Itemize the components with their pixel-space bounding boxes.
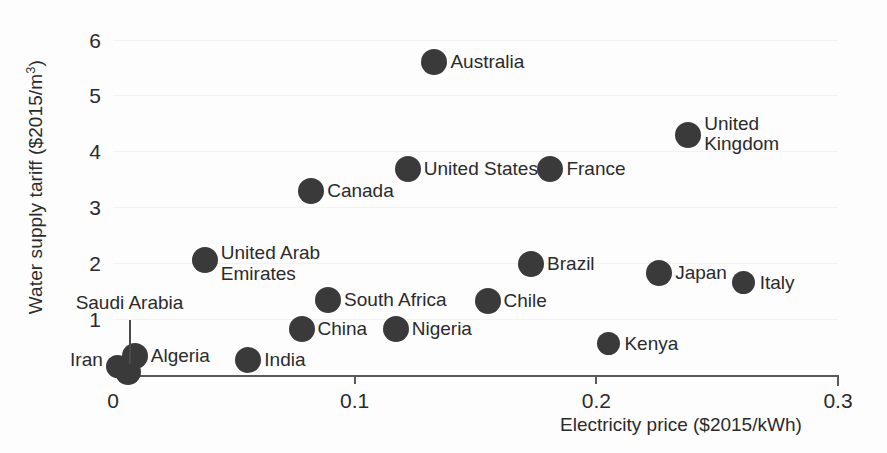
- gridline-ghost: [113, 40, 838, 41]
- data-point-label: India: [264, 350, 305, 371]
- data-point-marker[interactable]: [518, 251, 544, 277]
- data-point-marker[interactable]: [537, 156, 563, 182]
- x-axis-tick-label: 0.1: [340, 390, 369, 411]
- data-point-label: Brazil: [547, 254, 595, 275]
- data-point-marker[interactable]: [421, 49, 447, 75]
- scatter-chart-figure: Water supply tariff ($2015/m3) Electrici…: [0, 0, 887, 453]
- gridline-ghost: [113, 207, 838, 208]
- data-point-label: France: [566, 159, 625, 180]
- data-point-label: Kenya: [624, 333, 678, 354]
- data-point-label: Japan: [675, 262, 727, 283]
- y-axis-title-main: Water supply tariff ($2015/m: [25, 74, 46, 314]
- x-axis-tick-label: 0.2: [582, 390, 611, 411]
- data-point-marker[interactable]: [597, 332, 620, 355]
- data-point-marker[interactable]: [115, 359, 141, 385]
- data-point-marker[interactable]: [298, 178, 324, 204]
- data-point-label: Chile: [504, 290, 547, 311]
- y-axis-tick-label: 5: [89, 85, 101, 106]
- x-axis-tick-mark: [354, 375, 356, 384]
- gridline-ghost: [113, 319, 838, 320]
- x-axis-tick-mark: [595, 375, 597, 384]
- y-axis-tick-label: 4: [89, 141, 101, 162]
- y-axis-title-close: ): [25, 60, 46, 66]
- data-point-label: Australia: [450, 52, 524, 73]
- data-point-label: South Africa: [344, 289, 446, 310]
- data-point-marker[interactable]: [315, 287, 341, 313]
- y-axis-tick-label: 6: [89, 29, 101, 50]
- data-point-label: Canada: [327, 180, 394, 201]
- x-axis-title: Electricity price ($2015/kWh): [560, 414, 802, 436]
- data-point-label: Saudi Arabia: [76, 293, 184, 314]
- data-point-marker[interactable]: [646, 260, 672, 286]
- gridline-ghost: [113, 95, 838, 96]
- x-axis-line: [113, 375, 838, 377]
- data-point-marker[interactable]: [289, 316, 315, 342]
- data-point-label: Algeria: [151, 346, 210, 367]
- data-point-label: Italy: [760, 272, 795, 293]
- data-point-label: United Kingdom: [704, 114, 838, 155]
- data-point-marker[interactable]: [732, 271, 755, 294]
- data-point-label: China: [318, 319, 368, 340]
- data-point-label: United Arab Emirates: [221, 244, 320, 285]
- y-axis-tick-label: 2: [89, 253, 101, 274]
- data-point-marker[interactable]: [235, 347, 261, 373]
- data-point-label: Nigeria: [412, 318, 472, 339]
- data-point-marker[interactable]: [383, 316, 409, 342]
- y-axis-title-superscript: 3: [23, 67, 38, 74]
- y-axis-title: Water supply tariff ($2015/m3): [23, 7, 47, 367]
- x-axis-tick-label: 0: [107, 390, 119, 411]
- x-axis-tick-mark: [837, 375, 839, 386]
- label-leader-line: [129, 320, 131, 364]
- plot-area: 12345600.10.20.3AustraliaUnited KingdomU…: [113, 20, 838, 375]
- data-point-label: Iran: [70, 350, 103, 371]
- y-axis-tick-label: 3: [89, 197, 101, 218]
- data-point-marker[interactable]: [475, 288, 501, 314]
- data-point-marker[interactable]: [675, 122, 701, 148]
- x-axis-tick-label: 0.3: [823, 390, 852, 411]
- data-point-marker[interactable]: [395, 156, 421, 182]
- data-point-label: United States: [424, 159, 538, 180]
- data-point-marker[interactable]: [192, 247, 218, 273]
